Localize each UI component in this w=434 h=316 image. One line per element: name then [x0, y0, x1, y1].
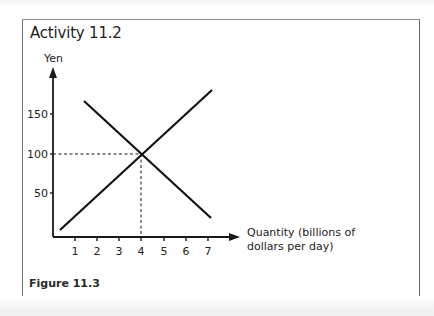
x-tick-label: 2: [94, 245, 101, 258]
demand-curve: [84, 101, 211, 218]
figure-caption: Figure 11.3: [29, 277, 100, 290]
x-tick-label: 1: [72, 245, 79, 258]
x-axis-arrow-icon: [229, 233, 240, 241]
supply-curve: [60, 90, 212, 230]
y-tick-label: 100: [27, 148, 48, 161]
y-axis-arrow-icon: [49, 67, 57, 78]
y-tick-label: 50: [34, 187, 48, 200]
y-tick-label: 150: [27, 108, 48, 121]
y-axis: Yen 150 100 50: [27, 52, 63, 237]
x-tick-label: 3: [116, 245, 123, 258]
page-bleed-bottom: [0, 296, 434, 316]
x-tick-label: 5: [161, 245, 168, 258]
x-axis-label-line2: dollars per day): [247, 240, 334, 253]
x-tick-label: 6: [183, 245, 190, 258]
x-axis: 1 2 3 4 5 6 7 Quantity (billions of doll…: [53, 226, 356, 258]
y-axis-label: Yen: [43, 52, 63, 65]
x-tick-label: 4: [138, 245, 145, 258]
supply-demand-chart: Yen 150 100 50 1 2 3 4 5 6 7 Quantity (b…: [0, 0, 434, 316]
x-tick-label: 7: [205, 245, 212, 258]
x-axis-label-line1: Quantity (billions of: [247, 226, 356, 239]
